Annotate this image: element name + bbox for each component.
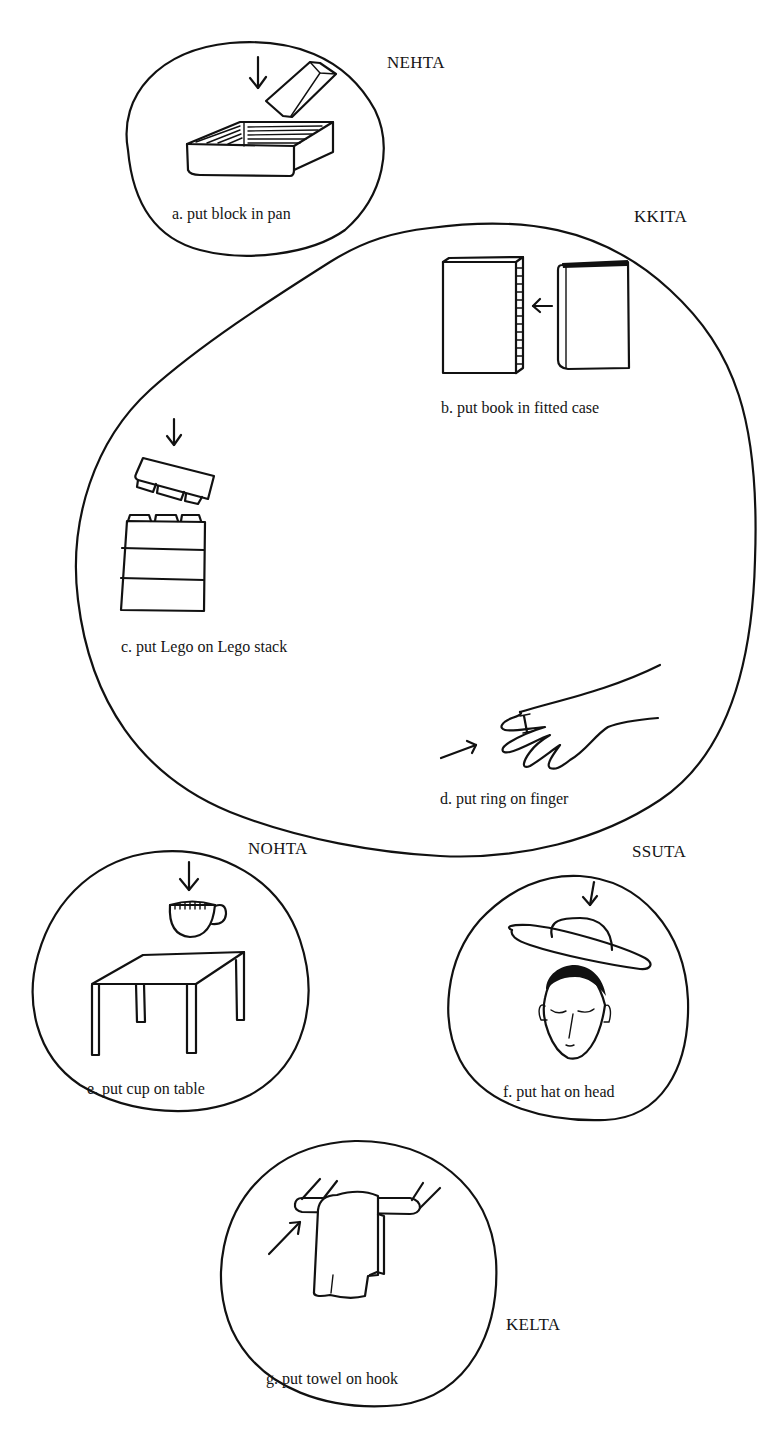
lego-stack-icon <box>121 515 205 611</box>
figure-caption-truncated <box>0 1443 780 1451</box>
item-label-d: d. put ring on finger <box>440 790 568 808</box>
cup-on-table-illustration <box>92 862 244 1055</box>
cup-icon <box>170 902 226 938</box>
category-label-nohta: NOHTA <box>248 840 308 858</box>
category-label-kkita: KKITA <box>634 208 687 226</box>
hat-on-head-illustration <box>509 882 650 1059</box>
down-arrow-icon <box>180 862 198 890</box>
down-arrow-icon <box>167 419 181 445</box>
block-icon <box>266 62 336 117</box>
item-label-b: b. put book in fitted case <box>441 399 599 417</box>
towel-icon <box>314 1192 384 1298</box>
head-icon <box>539 965 610 1059</box>
ring-on-finger-illustration <box>441 665 660 769</box>
lego-illustration <box>121 419 214 611</box>
category-label-nehta: NEHTA <box>387 54 445 72</box>
down-arrow-icon <box>583 882 597 905</box>
hat-icon <box>509 918 650 969</box>
book-case-icon <box>443 257 523 373</box>
diagonal-arrow-icon <box>269 1222 300 1254</box>
kkita-region <box>76 223 756 856</box>
category-label-kelta: KELTA <box>506 1316 560 1334</box>
book-icon <box>558 260 629 369</box>
item-label-c: c. put Lego on Lego stack <box>121 638 287 656</box>
item-label-a: a. put block in pan <box>172 205 291 223</box>
right-arrow-icon <box>441 741 476 758</box>
left-arrow-icon <box>533 299 552 312</box>
down-arrow-icon <box>250 57 266 88</box>
nehta-region <box>127 42 384 256</box>
item-label-f: f. put hat on head <box>503 1083 615 1101</box>
table-icon <box>92 952 244 1055</box>
towel-on-hook-illustration <box>269 1179 440 1298</box>
pan-icon <box>187 122 333 176</box>
book-in-case-illustration <box>443 257 629 373</box>
category-label-ssuta: SSUTA <box>632 843 686 861</box>
nohta-region <box>33 851 309 1111</box>
block-in-pan-illustration <box>187 57 336 176</box>
lego-brick-icon <box>135 458 214 504</box>
item-label-e: e. put cup on table <box>87 1080 205 1098</box>
item-label-g: g. put towel on hook <box>266 1370 398 1388</box>
